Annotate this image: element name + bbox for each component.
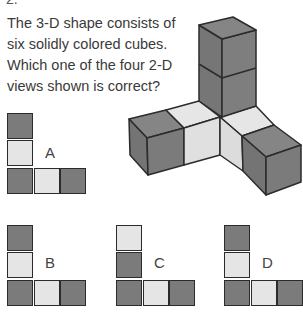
option-b-cell xyxy=(7,280,33,306)
option-a-cell xyxy=(34,168,60,194)
option-c-cell xyxy=(116,252,142,278)
option-d-cell xyxy=(277,280,303,306)
option-c-cell xyxy=(116,280,142,306)
option-a-cell xyxy=(60,168,86,194)
option-a-cell xyxy=(7,140,33,166)
option-b-cell xyxy=(7,252,33,278)
option-d-label: D xyxy=(262,254,273,271)
option-d-cell xyxy=(224,252,250,278)
option-d-cell xyxy=(251,280,277,306)
option-c-cell xyxy=(116,225,142,251)
option-b-cell xyxy=(7,225,33,251)
option-c-cell xyxy=(143,280,169,306)
option-b-cell xyxy=(60,280,86,306)
option-d-cell xyxy=(224,280,250,306)
option-a-cell xyxy=(7,168,33,194)
option-c-cell xyxy=(169,280,195,306)
option-b-cell xyxy=(34,280,60,306)
3d-cube-shape xyxy=(0,0,303,323)
option-d-cell xyxy=(224,225,250,251)
option-c-label: C xyxy=(154,254,165,271)
option-b-label: B xyxy=(45,254,55,271)
option-a-label: A xyxy=(45,144,55,161)
option-a-cell xyxy=(7,113,33,139)
